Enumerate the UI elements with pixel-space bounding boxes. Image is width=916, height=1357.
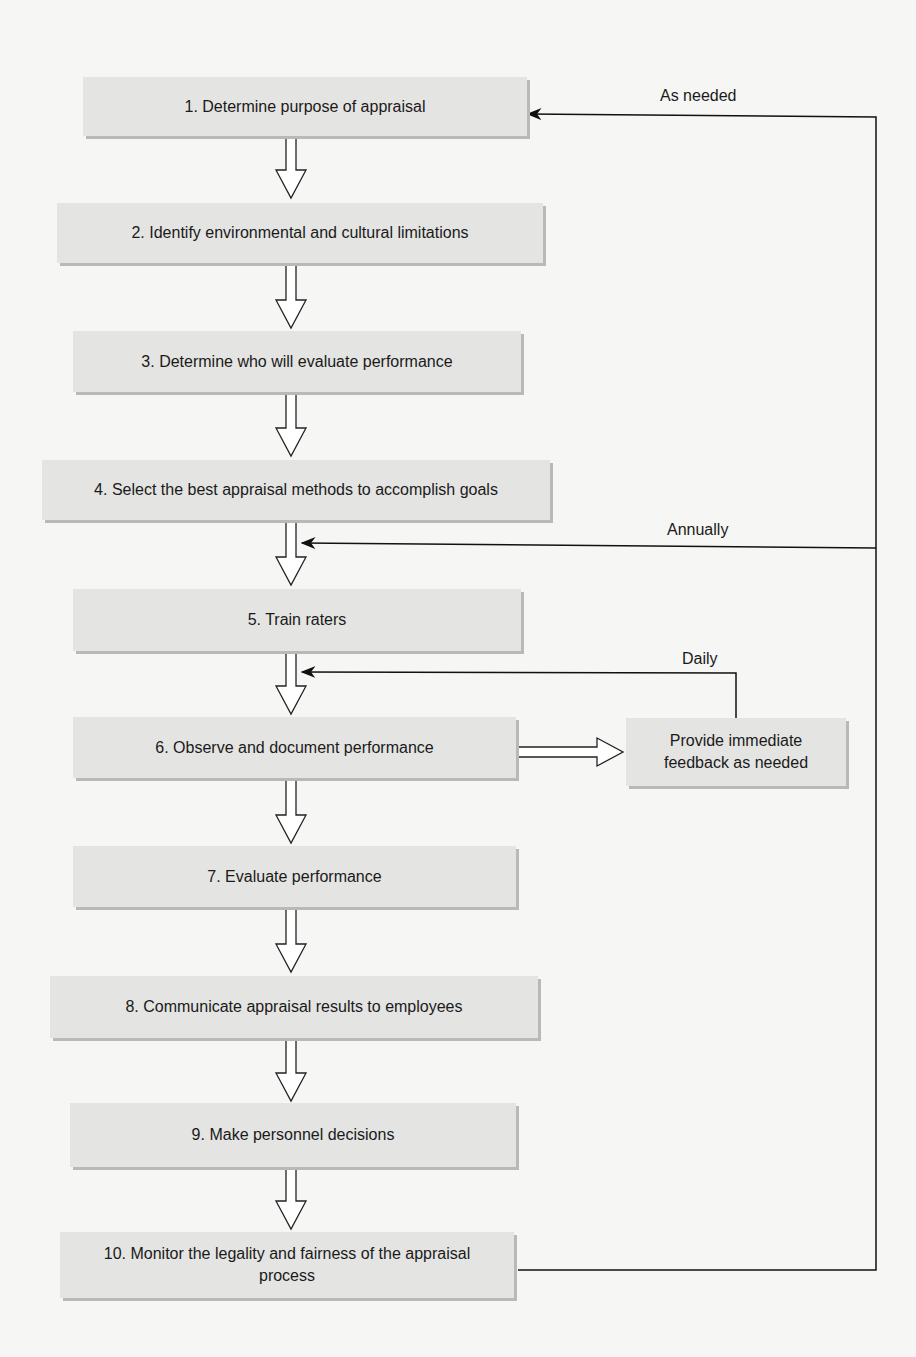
step-label: 8. Communicate appraisal results to empl… [125,996,462,1018]
step-9: 9. Make personnel decisions [70,1103,516,1167]
step-4: 4. Select the best appraisal methods to … [42,460,550,520]
label-as-needed: As needed [660,87,737,105]
step-label: 3. Determine who will evaluate performan… [141,351,452,373]
step-7: 7. Evaluate performance [73,846,516,907]
step-label: 7. Evaluate performance [207,866,381,888]
step-label: 6. Observe and document performance [155,737,433,759]
step-label: 4. Select the best appraisal methods to … [94,479,498,501]
side-box-immediate-feedback: Provide immediate feedback as needed [626,718,846,786]
step-5: 5. Train raters [73,589,521,651]
step-8: 8. Communicate appraisal results to empl… [50,976,538,1038]
step-10: 10. Monitor the legality and fairness of… [60,1232,514,1298]
step-1: 1. Determine purpose of appraisal [83,77,527,136]
label-annually: Annually [667,521,728,539]
step-2: 2. Identify environmental and cultural l… [57,203,543,263]
step-label: 5. Train raters [248,609,347,631]
step-6: 6. Observe and document performance [73,717,516,778]
step-3: 3. Determine who will evaluate performan… [73,331,521,392]
step-label: 10. Monitor the legality and fairness of… [92,1243,482,1287]
down-arrows [276,132,623,1229]
step-label: 2. Identify environmental and cultural l… [131,222,468,244]
side-box-label: Provide immediate feedback as needed [646,730,826,774]
step-label: 9. Make personnel decisions [192,1124,395,1146]
label-daily: Daily [682,650,718,668]
step-label: 1. Determine purpose of appraisal [184,96,425,118]
